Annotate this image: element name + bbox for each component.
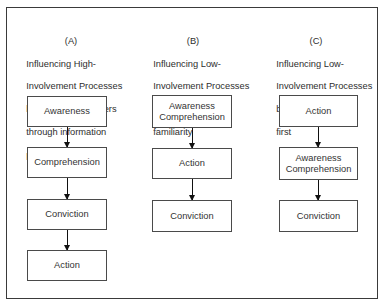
column-a-letter: (A) bbox=[21, 36, 121, 47]
column-a-step-action: Action bbox=[27, 250, 107, 281]
column-a-line-2: Involvement Processes bbox=[26, 81, 122, 91]
column-c-line-2: Involvement Processes bbox=[276, 81, 372, 91]
arrow-down-icon bbox=[67, 230, 68, 250]
column-c-step-awareness-comprehension: Awareness Comprehension bbox=[279, 147, 358, 180]
column-b-line-2: Involvement Processes bbox=[153, 81, 249, 91]
column-b-step-awareness-comprehension: Awareness Comprehension bbox=[152, 95, 232, 128]
column-a-step-awareness: Awareness bbox=[27, 96, 107, 127]
column-c-step-conviction: Conviction bbox=[279, 200, 358, 232]
arrow-down-icon bbox=[318, 180, 319, 200]
column-a-step-comprehension: Comprehension bbox=[27, 147, 107, 178]
column-a-line-1: Influencing High- bbox=[26, 59, 96, 69]
column-a-step-conviction: Conviction bbox=[27, 199, 107, 230]
column-c-letter: (C) bbox=[271, 36, 361, 47]
column-b-letter: (B) bbox=[148, 36, 238, 47]
column-b-line-1: Influencing Low- bbox=[153, 59, 221, 69]
arrow-down-icon bbox=[192, 128, 193, 148]
column-b-step-conviction: Conviction bbox=[152, 200, 232, 232]
arrow-down-icon bbox=[67, 178, 68, 199]
arrow-down-icon bbox=[192, 179, 193, 200]
column-b-step-action: Action bbox=[152, 148, 232, 179]
arrow-down-icon bbox=[318, 127, 319, 147]
arrow-down-icon bbox=[67, 127, 68, 147]
column-a-heading: (A) Influencing High- Involvement Proces… bbox=[21, 13, 146, 161]
column-c-line-1: Influencing Low- bbox=[276, 59, 344, 69]
column-b-line-4: familiarity bbox=[153, 127, 192, 137]
column-c-line-4: first bbox=[276, 127, 291, 137]
column-c-step-action: Action bbox=[279, 95, 358, 127]
